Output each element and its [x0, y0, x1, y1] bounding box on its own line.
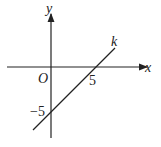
line-k-label: k	[111, 34, 118, 49]
origin-label: O	[38, 71, 48, 86]
diagram-canvas: x y O k 5 −5	[0, 0, 161, 147]
line-k	[33, 48, 115, 130]
coordinate-diagram: x y O k 5 −5	[0, 0, 161, 147]
y-intercept-label: −5	[30, 104, 45, 119]
y-axis-label: y	[44, 1, 53, 16]
x-intercept-label: 5	[89, 73, 96, 88]
x-axis-label: x	[144, 60, 152, 75]
